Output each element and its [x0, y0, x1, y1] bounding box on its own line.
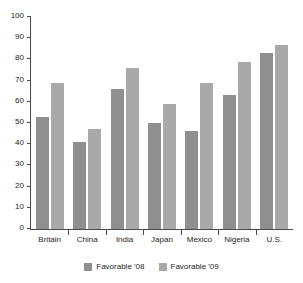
- legend-entry: Favorable '08: [84, 262, 144, 271]
- y-tick-label: 60: [15, 96, 24, 105]
- bar-group: [106, 17, 143, 229]
- legend-label: Favorable '09: [171, 262, 219, 271]
- bar: [185, 131, 198, 229]
- y-tick-label: 40: [15, 138, 24, 147]
- bar-group: [31, 17, 68, 229]
- x-axis-label: Nigeria: [218, 235, 255, 245]
- x-axis-label: India: [106, 235, 143, 245]
- bar: [51, 83, 64, 229]
- bar: [88, 129, 101, 229]
- bar-group: [143, 17, 180, 229]
- x-axis-label: China: [68, 235, 105, 245]
- x-axis-labels: BritainChinaIndiaJapanMexicoNigeriaU.S.: [31, 235, 293, 245]
- bar-group: [181, 17, 218, 229]
- bar-group: [256, 17, 293, 229]
- x-axis-label: U.S.: [256, 235, 293, 245]
- legend-entry: Favorable '09: [159, 262, 219, 271]
- plot-area: 0102030405060708090100: [31, 17, 293, 229]
- x-axis-label: Britain: [31, 235, 68, 245]
- bar: [200, 83, 213, 229]
- bars-layer: [31, 17, 293, 229]
- bar: [275, 45, 288, 229]
- chart-legend: Favorable '08Favorable '09: [0, 262, 303, 271]
- y-tick-label: 0: [20, 223, 24, 232]
- y-tick-label: 90: [15, 32, 24, 41]
- bar: [111, 89, 124, 229]
- y-tick-label: 70: [15, 75, 24, 84]
- y-tick-label: 10: [15, 202, 24, 211]
- bar-group: [68, 17, 105, 229]
- bar: [223, 95, 236, 229]
- legend-swatch-icon: [159, 263, 167, 271]
- bar-chart: 0102030405060708090100 BritainChinaIndia…: [0, 0, 303, 283]
- bar: [260, 53, 273, 229]
- bar: [36, 117, 49, 229]
- bar: [73, 142, 86, 229]
- y-tick-label: 50: [15, 117, 24, 126]
- y-tick-label: 100: [11, 11, 24, 20]
- legend-label: Favorable '08: [96, 262, 144, 271]
- y-tick-label: 80: [15, 53, 24, 62]
- x-axis-label: Mexico: [181, 235, 218, 245]
- bar: [163, 104, 176, 229]
- bar: [148, 123, 161, 229]
- bar: [238, 62, 251, 229]
- legend-swatch-icon: [84, 263, 92, 271]
- bar-group: [218, 17, 255, 229]
- y-tick-label: 30: [15, 159, 24, 168]
- y-tick-label: 20: [15, 181, 24, 190]
- bar: [126, 68, 139, 229]
- x-axis-label: Japan: [143, 235, 180, 245]
